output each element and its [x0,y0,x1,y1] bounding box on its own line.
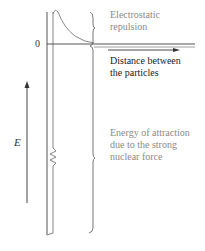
brace [89,12,95,233]
distance-label-line1: Distance between [110,55,181,66]
repulsion-label-line2: repulsion [110,21,147,32]
zero-energy-line [47,44,195,47]
energy-axis-label: E [14,136,21,148]
zero-label: 0 [35,38,40,49]
attraction-label-line3: nuclear force [110,151,162,162]
distance-axis-arrow [108,48,180,52]
distance-label-line2: the particles [110,67,159,78]
potential-energy-diagram [0,0,205,251]
attraction-label-line2: due to the strong [110,139,177,150]
energy-axis-arrow [25,81,30,203]
repulsion-label-line1: Electrostatic [110,9,160,20]
attraction-label-line1: Energy of attraction [110,127,190,138]
repulsion-curve [53,10,94,43]
potential-well-walls [47,12,56,235]
